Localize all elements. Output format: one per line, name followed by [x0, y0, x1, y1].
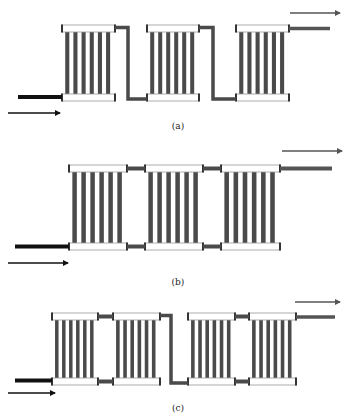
radiator-tube — [256, 32, 260, 94]
radiator-tube — [191, 320, 195, 378]
header-end-cap — [235, 25, 237, 33]
radiator-tube — [65, 32, 69, 94]
radiator-tube — [259, 320, 263, 378]
radiator-tube — [117, 172, 122, 243]
radiator-header — [52, 378, 98, 385]
radiator-tube — [288, 320, 292, 378]
radiator-tube — [252, 172, 257, 243]
radiator-tube — [62, 320, 66, 378]
radiator-tube — [98, 32, 102, 94]
radiator-tube — [145, 320, 149, 378]
header-end-cap — [198, 94, 200, 102]
radiator-tube — [280, 32, 284, 94]
radiator-header — [145, 165, 203, 172]
radiator-tube — [166, 172, 171, 243]
radiator-header — [221, 165, 280, 172]
radiator-tube — [138, 320, 142, 378]
radiator-tube — [90, 172, 95, 243]
radiator-tube — [182, 32, 186, 94]
radiator-tube — [243, 172, 248, 243]
radiator-tube — [247, 32, 251, 94]
radiator-tube — [99, 172, 104, 243]
header-end-cap — [61, 25, 63, 33]
radiator-header — [249, 313, 296, 320]
series-connector-pipe — [115, 28, 147, 100]
radiator-header — [236, 94, 289, 101]
radiator-header — [188, 313, 235, 320]
radiator-tube — [55, 320, 59, 378]
header-end-cap — [68, 165, 70, 173]
panel-b-parallel-connection — [8, 151, 342, 263]
radiator-tube — [272, 32, 276, 94]
radiator-1 — [61, 25, 116, 102]
radiator-tube — [116, 320, 120, 378]
series-connector-pipe — [160, 316, 188, 384]
radiator-tube — [261, 172, 266, 243]
header-end-cap — [51, 313, 53, 321]
radiator-tube — [148, 172, 153, 243]
radiator-tube — [106, 32, 110, 94]
radiator-2 — [112, 313, 161, 386]
radiator-tube — [81, 172, 86, 243]
radiator-header — [69, 165, 127, 172]
radiator-header — [52, 313, 98, 320]
radiator-header — [188, 378, 235, 385]
radiator-tube — [252, 320, 256, 378]
radiator-3 — [235, 25, 290, 102]
radiator-connection-diagram: (a) (b) (c) — [0, 0, 349, 419]
radiator-tube — [152, 320, 156, 378]
header-end-cap — [114, 94, 116, 102]
radiator-tube — [264, 32, 268, 94]
radiator-3 — [187, 313, 236, 386]
radiator-tube — [130, 320, 134, 378]
radiator-header — [113, 378, 160, 385]
radiator-header — [145, 243, 203, 250]
radiator-tube — [239, 32, 243, 94]
radiator-header — [113, 313, 160, 320]
radiator-tube — [174, 32, 178, 94]
radiator-tube — [69, 320, 73, 378]
radiator-header — [147, 25, 199, 32]
radiator-tube — [224, 172, 229, 243]
header-end-cap — [279, 243, 281, 251]
radiator-tube — [73, 32, 77, 94]
radiator-header — [147, 94, 199, 101]
radiator-tube — [270, 172, 275, 243]
header-end-cap — [146, 25, 148, 33]
radiator-header — [249, 378, 296, 385]
radiator-tube — [83, 320, 87, 378]
radiator-tube — [108, 172, 113, 243]
radiator-tube — [227, 320, 231, 378]
radiator-4 — [248, 313, 297, 386]
radiator-tube — [72, 172, 77, 243]
radiator-tube — [90, 320, 94, 378]
radiator-1 — [51, 313, 99, 386]
radiator-tube — [157, 172, 162, 243]
caption-a: (a) — [172, 121, 184, 131]
radiator-tube — [175, 172, 180, 243]
header-end-cap — [288, 94, 290, 102]
radiator-tube — [123, 320, 127, 378]
radiator-tube — [90, 32, 94, 94]
radiator-tube — [184, 172, 189, 243]
panel-a-series-connection — [8, 13, 340, 113]
caption-c: (c) — [172, 403, 184, 413]
radiator-tube — [150, 32, 154, 94]
header-end-cap — [295, 378, 297, 386]
radiator-tube — [213, 320, 217, 378]
radiator-2 — [144, 165, 204, 251]
radiator-tube — [274, 320, 278, 378]
header-end-cap — [159, 378, 161, 386]
radiator-3 — [220, 165, 281, 251]
series-connector-pipe — [199, 28, 236, 100]
radiator-1 — [68, 165, 128, 251]
radiator-tube — [193, 172, 198, 243]
radiator-tube — [266, 320, 270, 378]
radiator-tube — [82, 32, 86, 94]
radiator-tube — [205, 320, 209, 378]
radiator-tube — [166, 32, 170, 94]
radiator-header — [236, 25, 289, 32]
radiator-tube — [158, 32, 162, 94]
radiator-tube — [220, 320, 224, 378]
panel-c-mixed-connection — [8, 302, 340, 393]
